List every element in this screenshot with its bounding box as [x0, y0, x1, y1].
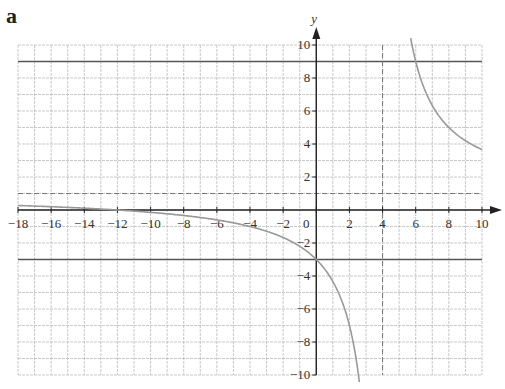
x-tick-label: −6	[210, 216, 224, 231]
y-tick-label: −10	[290, 367, 310, 382]
x-tick-label: −10	[140, 216, 160, 231]
curve-right-branch	[411, 38, 482, 149]
x-tick-label: −4	[243, 216, 257, 231]
chart: y−18−16−14−12−10−8−6−4−20246810−10−8−6−4…	[0, 0, 505, 389]
x-tick-label: 6	[412, 216, 419, 231]
y-axis-arrow-icon	[312, 27, 320, 39]
x-tick-label: −2	[276, 216, 290, 231]
y-tick-label: 2	[304, 169, 311, 184]
y-tick-label: −8	[296, 334, 310, 349]
x-tick-label: −16	[41, 216, 62, 231]
x-axis-arrow-icon	[490, 206, 502, 214]
y-tick-label: 10	[297, 37, 310, 52]
y-tick-label: −4	[296, 268, 310, 283]
y-tick-label: −2	[296, 235, 310, 250]
x-tick-label: −8	[177, 216, 191, 231]
y-tick-label: 4	[304, 136, 311, 151]
x-tick-label: 10	[476, 216, 489, 231]
curve-left-branch	[18, 206, 359, 383]
x-tick-label: 4	[379, 216, 386, 231]
y-tick-label: −6	[296, 301, 310, 316]
y-axis-label: y	[309, 11, 317, 26]
x-tick-label: −18	[8, 216, 28, 231]
y-tick-label: 8	[304, 70, 311, 85]
x-tick-label: 0	[303, 216, 310, 231]
y-tick-label: 6	[304, 103, 311, 118]
x-tick-label: −14	[74, 216, 95, 231]
x-tick-label: 8	[446, 216, 453, 231]
x-tick-label: −12	[107, 216, 127, 231]
x-tick-label: 2	[346, 216, 353, 231]
